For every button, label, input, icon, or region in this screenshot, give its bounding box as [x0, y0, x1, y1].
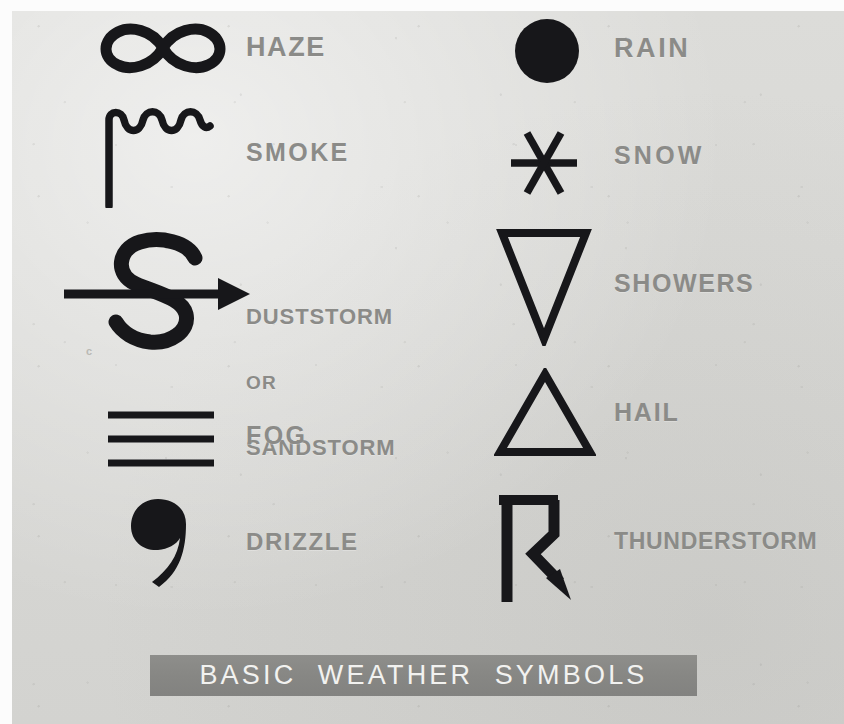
thunderstorm-lightning-symbol [488, 490, 600, 612]
fog-label: FOG [246, 423, 307, 449]
infinity-symbol [92, 20, 234, 76]
smoke-label: SMOKE [246, 140, 350, 166]
stray-mark: c [86, 345, 93, 353]
hail-label: HAIL [614, 400, 680, 426]
showers-down-triangle-symbol [494, 226, 594, 346]
hail-up-triangle-symbol [494, 368, 596, 458]
snow-label: SNOW [614, 143, 705, 169]
rain-label: RAIN [614, 35, 690, 63]
haze-label: HAZE [246, 34, 326, 62]
snow-asterisk-symbol [506, 126, 582, 200]
title-banner: BASIC WEATHER SYMBOLS [150, 655, 697, 696]
thunderstorm-label: THUNDERSTORM [614, 530, 817, 553]
weather-symbols-poster: HAZE SMOKE DUSTSTORM OR SANDSTORM c FOG … [0, 0, 844, 724]
poster-title: BASIC WEATHER SYMBOLS [199, 660, 647, 691]
duststorm-label-line1: DUSTSTORM [246, 306, 395, 328]
drizzle-comma-symbol [128, 498, 198, 588]
drizzle-label: DRIZZLE [246, 530, 359, 554]
duststorm-label: DUSTSTORM OR SANDSTORM [246, 261, 395, 505]
fog-three-bars-symbol [104, 408, 218, 472]
rain-filled-circle-symbol [512, 16, 584, 88]
smoke-plume-symbol [100, 104, 222, 208]
duststorm-label-line2: OR [246, 373, 395, 392]
showers-label: SHOWERS [614, 271, 754, 297]
duststorm-s-arrow-symbol [60, 232, 256, 356]
